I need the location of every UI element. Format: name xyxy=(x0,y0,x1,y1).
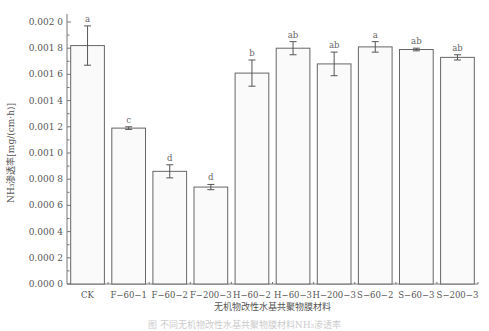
x-tick-label: CK xyxy=(81,290,95,300)
significance-letter: d xyxy=(167,153,173,163)
bar xyxy=(153,171,187,284)
x-tick-label: F−60−2 xyxy=(152,290,188,300)
y-tick-label: 0.000 0 xyxy=(29,279,64,289)
y-tick-label: 0.000 8 xyxy=(29,174,64,184)
y-tick-label: 0.000 6 xyxy=(29,200,64,210)
bar xyxy=(317,64,351,284)
y-tick-label: 0.000 4 xyxy=(29,227,64,237)
x-tick-label: F−200−3 xyxy=(190,290,232,300)
y-tick-label: 0.002 0 xyxy=(29,17,64,27)
significance-letter: ab xyxy=(411,36,422,46)
x-tick-label: S−60−2 xyxy=(357,290,393,300)
x-axis-title: 无机物改性水基共聚物膜材料 xyxy=(214,301,331,312)
x-tick-label: S−60−3 xyxy=(398,290,434,300)
bar xyxy=(71,46,105,284)
figure-caption: 图 不同无机物改性水基共聚物膜材料NH₃渗透率 xyxy=(0,318,489,331)
y-tick-label: 0.001 8 xyxy=(29,43,64,53)
bar xyxy=(358,47,392,284)
bar xyxy=(399,50,433,284)
y-tick-label: 0.000 2 xyxy=(29,253,63,263)
bar xyxy=(194,187,228,284)
significance-letter: a xyxy=(85,14,90,24)
bar xyxy=(235,73,269,284)
y-axis: 0.000 00.000 20.000 40.000 60.000 80.001… xyxy=(29,14,71,289)
significance-letter: b xyxy=(249,48,255,58)
significance-letter: ab xyxy=(329,40,340,50)
bars: acddbababaabab xyxy=(71,14,475,284)
significance-letter: c xyxy=(126,115,131,125)
significance-letter: ab xyxy=(452,43,463,53)
y-tick-label: 0.001 6 xyxy=(29,69,64,79)
y-tick-label: 0.001 0 xyxy=(29,148,64,158)
significance-letter: a xyxy=(373,30,378,40)
y-tick-label: 0.001 4 xyxy=(29,96,64,106)
x-tick-label: H−200−3 xyxy=(313,290,356,300)
x-tick-label: H−60−3 xyxy=(274,290,312,300)
bar xyxy=(441,57,475,284)
y-tick-label: 0.001 2 xyxy=(29,122,63,132)
significance-letter: ab xyxy=(288,30,299,40)
significance-letter: d xyxy=(208,172,214,182)
x-tick-label: H−60−2 xyxy=(233,290,271,300)
x-tick-label: F−60−1 xyxy=(110,290,146,300)
bar xyxy=(112,128,146,284)
y-axis-title: NH₃渗透率[mg/(cm·h)] xyxy=(5,103,16,203)
x-tick-label: S−200−3 xyxy=(437,290,479,300)
bar xyxy=(276,48,310,284)
